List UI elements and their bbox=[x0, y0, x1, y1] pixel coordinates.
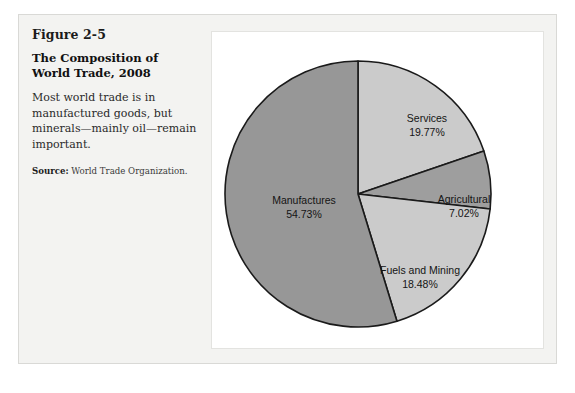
figure-container: Figure 2-5 The Composition of World Trad… bbox=[0, 0, 575, 393]
slice-value-agricultural: 7.02% bbox=[449, 207, 479, 219]
slice-label-services: Services bbox=[407, 112, 447, 124]
figure-source: Source: World Trade Organization. bbox=[32, 165, 200, 177]
source-label: Source: bbox=[32, 166, 69, 176]
slice-label-agricultural: Agricultural bbox=[438, 193, 491, 205]
chart-area: Services19.77%Agricultural7.02%Fuels and… bbox=[211, 31, 544, 349]
slice-value-services: 19.77% bbox=[409, 126, 445, 138]
slice-label-manufactures: Manufactures bbox=[272, 194, 336, 206]
slice-value-fuels-and-mining: 18.48% bbox=[402, 278, 438, 290]
pie-chart: Services19.77%Agricultural7.02%Fuels and… bbox=[212, 32, 545, 350]
figure-caption: Figure 2-5 The Composition of World Trad… bbox=[32, 27, 200, 177]
figure-number: Figure 2-5 bbox=[32, 27, 200, 42]
figure-title: The Composition of World Trade, 2008 bbox=[32, 51, 200, 81]
slice-value-manufactures: 54.73% bbox=[286, 208, 322, 220]
figure-panel: Figure 2-5 The Composition of World Trad… bbox=[18, 14, 557, 364]
figure-description: Most world trade is in manufactured good… bbox=[32, 90, 200, 152]
source-text: World Trade Organization. bbox=[69, 166, 188, 176]
slice-label-fuels-and-mining: Fuels and Mining bbox=[380, 264, 460, 276]
